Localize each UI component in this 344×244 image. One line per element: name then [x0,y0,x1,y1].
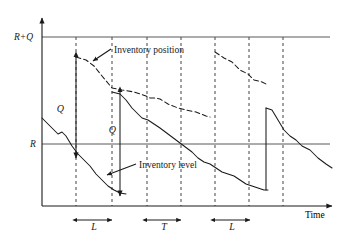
axes-group [42,18,332,206]
inventory-position-annotation-label: Inventory position [114,45,184,55]
y-tick-label-R: R [29,139,36,149]
inventory-position-pointer-arrow [93,49,111,61]
lead-time-marker-1-label: L [90,221,97,232]
inventory-position-curve-cycle2 [215,52,266,84]
inventory-level-curve-segment-2 [112,92,268,190]
order-quantity-label-2: Q [109,124,117,135]
reference-lines-group [42,37,330,144]
lead-time-marker-2-label: L [228,221,235,232]
inventory-level-pointer-arrow [107,164,136,175]
inventory-position-curve [76,57,210,117]
review-gridlines-group [76,37,283,206]
inventory-level-annotation-label: Inventory level [139,160,197,170]
inventory-diagram-canvas: R+Q R Time Q Q Inventory position Invent… [0,0,344,244]
order-quantity-label-1: Q [57,103,65,114]
x-axis-label-time: Time [305,210,325,220]
inventory-diagram-figure: R+Q R Time Q Q Inventory position Invent… [0,0,344,244]
review-period-marker-label: T [161,221,168,232]
inventory-level-curve-segment-3 [266,108,332,168]
y-tick-label-R-plus-Q: R+Q [13,32,33,42]
